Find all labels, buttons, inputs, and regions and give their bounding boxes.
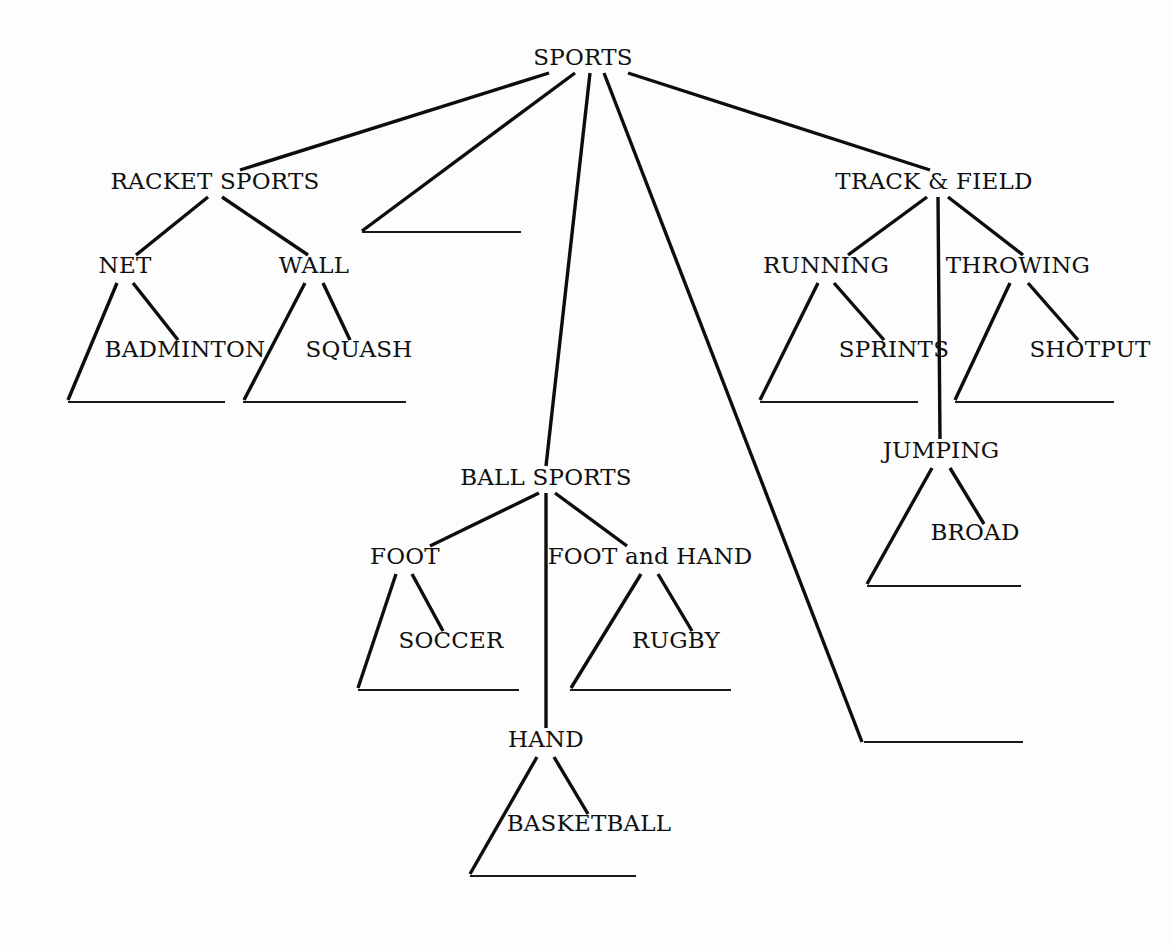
tree-edge xyxy=(240,73,549,170)
tree-edge xyxy=(658,574,692,631)
tree-edge xyxy=(358,574,396,688)
tree-edge xyxy=(323,283,350,340)
node-label-sprints: SPRINTS xyxy=(839,336,949,362)
node-label-hand: HAND xyxy=(508,726,584,752)
node-label-throwing: THROWING xyxy=(946,252,1090,278)
tree-edge xyxy=(834,283,884,340)
node-label-badminton: BADMINTON xyxy=(105,336,266,362)
node-label-foot_and_hand: FOOT and HAND xyxy=(548,543,753,569)
tree-edge xyxy=(136,197,208,255)
node-label-basketball: BASKETBALL xyxy=(507,810,672,836)
node-label-soccer: SOCCER xyxy=(398,627,504,653)
tree-edge xyxy=(867,468,932,584)
node-label-net: NET xyxy=(99,252,152,278)
node-label-squash: SQUASH xyxy=(306,336,413,362)
tree-edge xyxy=(1028,283,1078,340)
tree-edge xyxy=(430,493,539,546)
node-label-foot: FOOT xyxy=(370,543,440,569)
node-label-ball_sports: BALL SPORTS xyxy=(460,464,632,490)
tree-edge xyxy=(222,197,308,255)
tree-edge xyxy=(948,197,1023,255)
tree-edge xyxy=(950,468,984,524)
tree-edge xyxy=(628,73,930,170)
tree-edge xyxy=(554,757,588,814)
tree-edge xyxy=(938,197,940,439)
tree-edge xyxy=(760,283,818,400)
node-label-wall: WALL xyxy=(279,252,349,278)
node-label-shotput: SHOTPUT xyxy=(1029,336,1151,362)
node-labels-group: SPORTSRACKET SPORTSBALL SPORTSTRACK & FI… xyxy=(99,44,1151,836)
node-label-sports: SPORTS xyxy=(533,44,632,70)
sports-tree-diagram: SPORTSRACKET SPORTSBALL SPORTSTRACK & FI… xyxy=(0,0,1173,946)
node-label-broad: BROAD xyxy=(930,519,1019,545)
node-label-rugby: RUGBY xyxy=(632,627,720,653)
tree-edge xyxy=(546,73,590,466)
tree-edge xyxy=(955,283,1010,400)
node-label-running: RUNNING xyxy=(763,252,889,278)
tree-edge xyxy=(848,197,927,255)
node-label-racket_sports: RACKET SPORTS xyxy=(111,168,320,194)
tree-edge xyxy=(571,574,641,688)
tree-edge xyxy=(412,574,443,631)
tree-canvas: SPORTSRACKET SPORTSBALL SPORTSTRACK & FI… xyxy=(0,0,1173,946)
node-label-jumping: JUMPING xyxy=(881,437,1000,463)
tree-edge xyxy=(555,493,627,546)
tree-edge xyxy=(133,283,178,340)
node-label-track_field: TRACK & FIELD xyxy=(835,168,1032,194)
